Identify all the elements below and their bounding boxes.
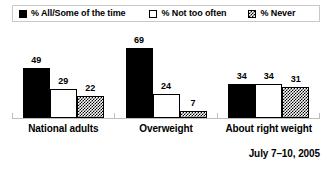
bar-group-overweight: 69 24 7 (115, 30, 218, 118)
bar (50, 89, 77, 118)
bar-slot: 49 (23, 30, 50, 118)
x-axis-tick (217, 113, 218, 119)
bar-slot: 34 (255, 30, 282, 118)
bar-groups: 49 29 22 69 (12, 30, 320, 118)
bar-slot: 69 (126, 30, 153, 118)
bar-value-label: 34 (237, 72, 247, 81)
x-axis-tick-label: About right weight (217, 123, 320, 134)
bar-value-label: 29 (58, 77, 68, 86)
plot-area: 49 29 22 69 (12, 30, 320, 118)
legend-item-label: % Never (260, 9, 295, 18)
bar-slot: 29 (50, 30, 77, 118)
bar-value-label: 22 (85, 84, 95, 93)
bar-group-about-right-weight: 34 34 31 (217, 30, 320, 118)
x-axis-tick-label: National adults (12, 123, 115, 134)
x-axis-tick (12, 113, 13, 119)
bar-value-label: 34 (264, 72, 274, 81)
bar-value-label: 24 (161, 82, 171, 91)
bar (126, 48, 153, 118)
legend-item-never: % Never (248, 9, 295, 18)
bar-slot: 34 (228, 30, 255, 118)
bar (282, 87, 309, 118)
bar-slot: 31 (282, 30, 309, 118)
x-axis-baseline (12, 118, 320, 119)
bar (180, 111, 207, 118)
bar-chart: % All/Some of the time % Not too often %… (0, 0, 333, 174)
bar-slot: 22 (77, 30, 104, 118)
bar-value-label: 7 (190, 99, 195, 108)
legend-swatch-hatch-icon (248, 10, 256, 18)
bar-value-label: 69 (134, 36, 144, 45)
bar (153, 94, 180, 118)
legend-swatch-open-icon (149, 10, 157, 18)
legend-item-not-too-often: % Not too often (149, 9, 226, 18)
legend-item-all-some-of-the-time: % All/Some of the time (19, 9, 125, 18)
bar-slot: 7 (180, 30, 207, 118)
legend-swatch-solid-icon (19, 10, 27, 18)
x-axis-tick-label: Overweight (115, 123, 218, 134)
bar-value-label: 49 (31, 56, 41, 65)
x-axis-category-labels: National adults Overweight About right w… (12, 123, 320, 134)
bar-slot: 24 (153, 30, 180, 118)
x-axis-tick (319, 113, 320, 119)
x-axis-tick (114, 113, 115, 119)
bar-value-label: 31 (291, 75, 301, 84)
legend-item-label: % All/Some of the time (31, 9, 125, 18)
legend-item-label: % Not too often (161, 9, 226, 18)
chart-legend: % All/Some of the time % Not too often %… (12, 5, 320, 22)
bar (255, 84, 282, 118)
bar-group-national-adults: 49 29 22 (12, 30, 115, 118)
chart-date-footnote: July 7–10, 2005 (249, 148, 320, 159)
bar (23, 68, 50, 118)
bar (228, 84, 255, 118)
bar (77, 96, 104, 118)
